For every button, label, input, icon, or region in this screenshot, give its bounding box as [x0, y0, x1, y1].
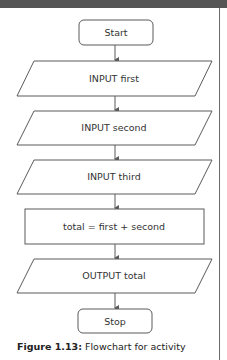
input-third-label: INPUT third: [87, 171, 141, 182]
output-total-node: OUTPUT total: [17, 259, 212, 293]
input-first-node: INPUT first: [17, 61, 212, 96]
stop-label: Stop: [104, 316, 126, 327]
start-label: Start: [104, 27, 127, 38]
flowchart: Start INPUT first INPUT second INPUT thi…: [0, 0, 227, 360]
input-second-node: INPUT second: [17, 111, 212, 145]
stop-node: Stop: [78, 309, 152, 333]
start-node: Start: [79, 20, 153, 45]
input-second-label: INPUT second: [81, 122, 146, 133]
figure-caption-text: Flowchart for activity: [82, 341, 186, 352]
output-total-label: OUTPUT total: [82, 270, 145, 281]
figure-number: Figure 1.13:: [17, 341, 82, 352]
process-total-node: total = first + second: [25, 209, 204, 244]
input-first-label: INPUT first: [89, 73, 139, 84]
input-third-node: INPUT third: [17, 160, 212, 194]
process-total-label: total = first + second: [63, 221, 165, 232]
figure-caption: Figure 1.13: Flowchart for activity: [17, 341, 186, 352]
